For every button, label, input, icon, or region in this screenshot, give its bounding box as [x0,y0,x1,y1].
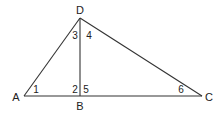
angle-label-5: 5 [83,84,89,95]
point-label-a: A [12,91,20,103]
angle-label-1: 1 [33,84,39,95]
angle-label-6: 6 [178,84,184,95]
point-label-c: C [205,91,213,103]
angle-label-3: 3 [72,30,78,41]
triangle-diagram: D A B C 1 2 3 4 5 6 [0,0,222,114]
point-label-d: D [76,4,84,16]
angle-label-2: 2 [72,84,78,95]
angle-label-4: 4 [86,30,92,41]
point-label-b: B [76,100,83,112]
